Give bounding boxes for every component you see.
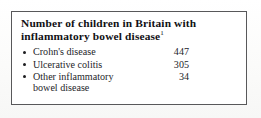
list-item-label: Crohn's disease — [33, 46, 151, 58]
bullet-icon — [23, 63, 26, 66]
list-item: Other inflammatory bowel disease 34 — [21, 71, 238, 94]
document-page: Number of children in Britain with infla… — [0, 0, 261, 118]
figure-title: Number of children in Britain with infla… — [21, 17, 235, 43]
list-item-value: 34 — [151, 71, 189, 83]
bullet-icon — [23, 75, 26, 78]
list-item-label: Other inflammatory bowel disease — [33, 71, 151, 94]
list-item: Ulcerative colitis 305 — [21, 59, 238, 71]
list-item-label: Ulcerative colitis — [33, 59, 151, 71]
figure-title-text: Number of children in Britain with infla… — [21, 17, 196, 42]
list-item-value: 447 — [151, 46, 189, 58]
figure-list: Crohn's disease 447 Ulcerative colitis 3… — [21, 46, 238, 93]
bullet-icon — [23, 51, 26, 54]
figure-box: Number of children in Britain with infla… — [11, 11, 247, 105]
figure-title-superscript-reference: 1 — [160, 29, 164, 37]
list-item: Crohn's disease 447 — [21, 46, 238, 58]
list-item-value: 305 — [151, 59, 189, 71]
